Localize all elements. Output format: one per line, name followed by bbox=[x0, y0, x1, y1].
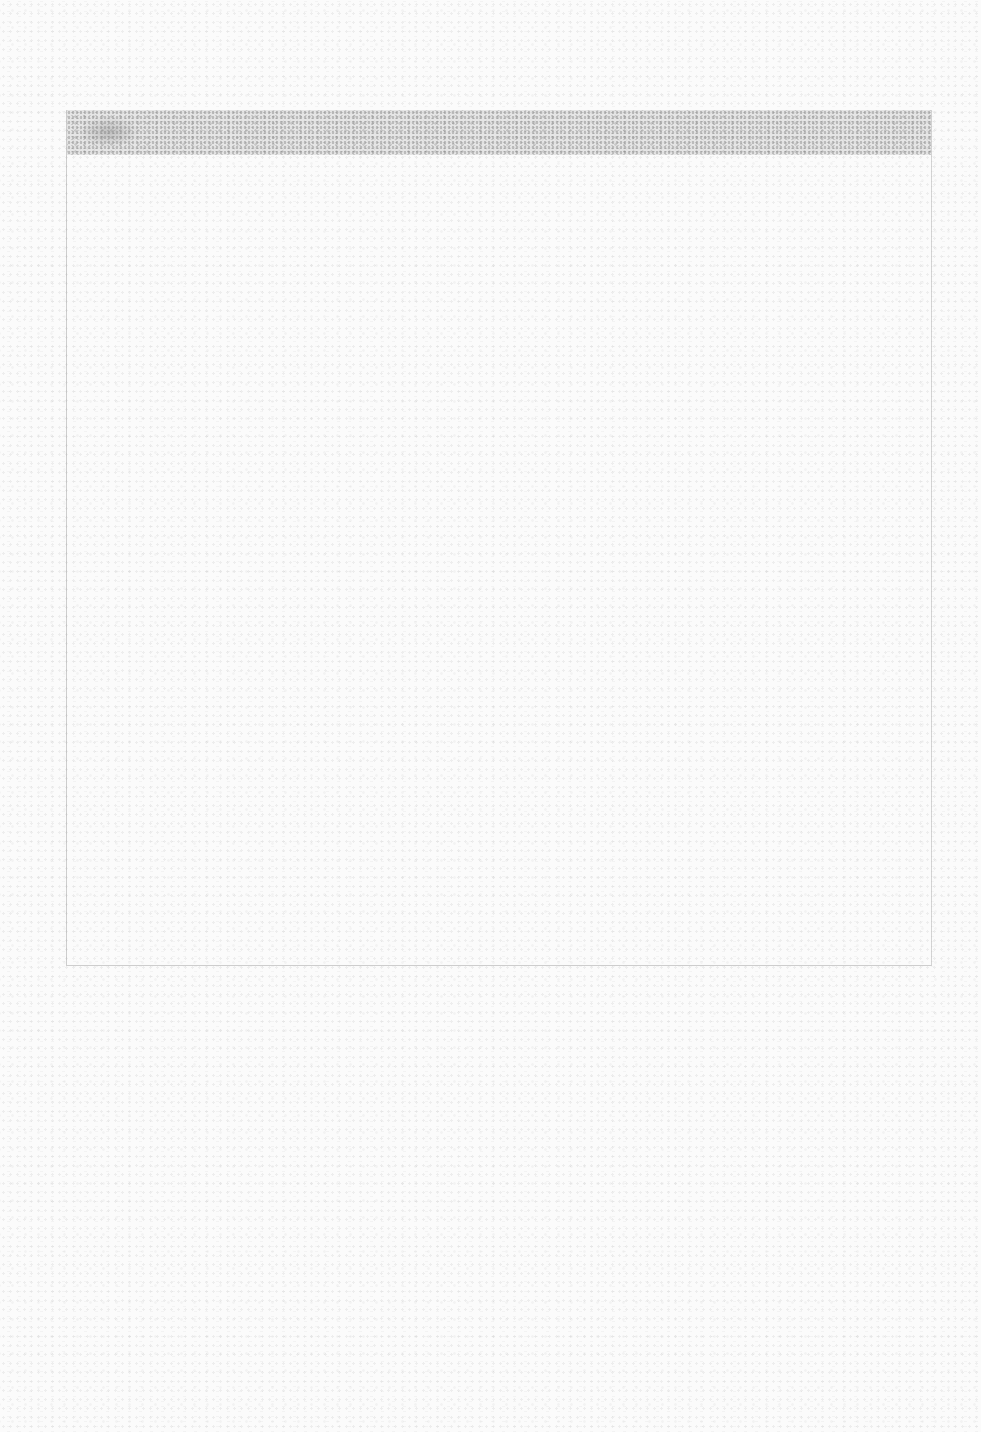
header-dark-mark bbox=[79, 116, 139, 148]
form-header-band bbox=[67, 110, 931, 155]
form-body bbox=[67, 155, 931, 965]
top-faded-text bbox=[100, 10, 880, 90]
form-box bbox=[66, 110, 932, 966]
